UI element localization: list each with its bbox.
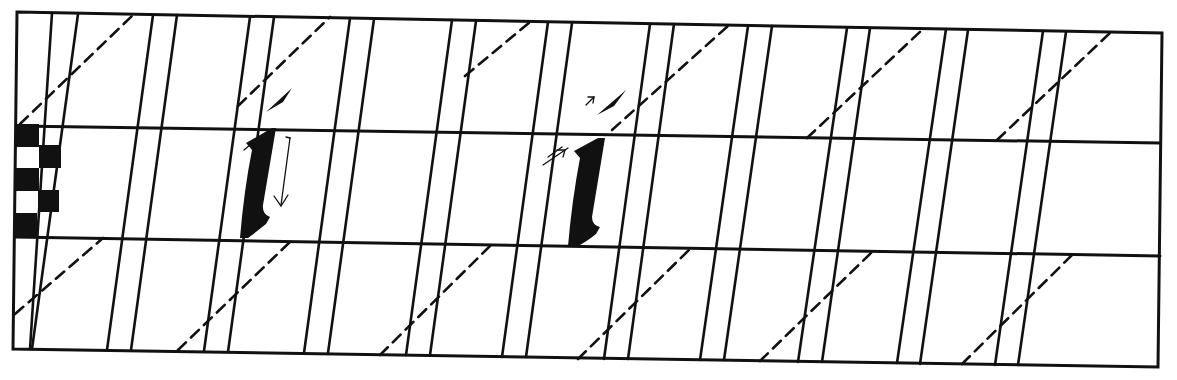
nib-mark-icon — [597, 90, 626, 115]
nib-mark-icon — [266, 88, 292, 112]
letter-l-demo-2 — [543, 90, 626, 246]
waistline-guide — [17, 126, 1160, 143]
stroke-direction-arrow-icon — [274, 137, 290, 206]
guide-sheet-drawing — [0, 0, 1177, 380]
entry-arrow-icon — [586, 97, 594, 105]
slant-guides — [30, 13, 1066, 365]
letter-l-demo-1 — [240, 88, 292, 238]
letter-l-glyph — [568, 138, 605, 246]
calligraphy-practice-sheet — [0, 0, 1177, 380]
letter-l-glyph — [240, 128, 276, 238]
